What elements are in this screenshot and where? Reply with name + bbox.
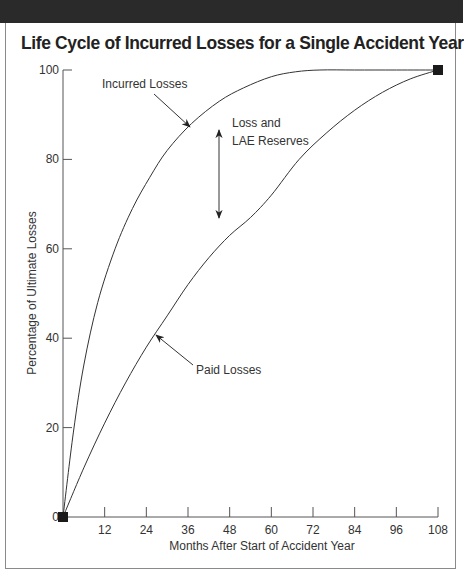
y-tick-label: 20 <box>46 421 60 435</box>
x-tick-label: 48 <box>223 523 237 537</box>
x-tick-label: 24 <box>140 523 154 537</box>
y-tick-label: 40 <box>46 331 60 345</box>
incurred-losses-label: Incurred Losses <box>102 77 187 91</box>
paid-losses-label: Paid Losses <box>196 363 261 377</box>
paid-arrow-icon <box>156 335 193 365</box>
reserves-label-line1: Loss and <box>232 116 281 130</box>
x-tick-label: 12 <box>98 523 112 537</box>
x-tick-label: 96 <box>390 523 404 537</box>
y-axis-label: Percentage of Ultimate Losses <box>25 211 39 374</box>
x-tick-label: 108 <box>428 523 448 537</box>
y-tick-label: 80 <box>46 152 60 166</box>
incurred-arrow-icon <box>154 94 190 127</box>
x-tick-label: 84 <box>348 523 362 537</box>
x-axis-label: Months After Start of Accident Year <box>169 539 354 553</box>
x-tick-label: 72 <box>306 523 320 537</box>
square-marker-icon <box>58 512 68 522</box>
square-marker-icon <box>433 65 443 75</box>
reserves-label-line2: LAE Reserves <box>232 134 309 148</box>
x-tick-label: 60 <box>265 523 279 537</box>
y-tick-label: 60 <box>46 242 60 256</box>
y-tick-label: 100 <box>39 63 59 77</box>
x-tick-label: 36 <box>181 523 195 537</box>
